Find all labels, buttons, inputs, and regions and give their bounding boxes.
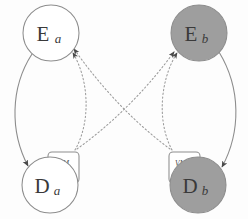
edge-execution-b-to-data-b: [219, 52, 236, 167]
edge-execution-a-to-data-a: [15, 54, 32, 166]
diagram-svg: VM VM E a E b D a D b: [0, 0, 248, 219]
data-node-a-shape: [22, 157, 78, 213]
edge-vm-b-to-execution-b: [162, 53, 177, 150]
edge-vm-b-to-execution-a: [74, 49, 170, 149]
dotted-edge-layer: [73, 49, 177, 150]
data-node-b-shape: [170, 157, 226, 213]
data-node-a-label: D: [34, 174, 49, 198]
edge-vm-a-to-execution-b: [77, 52, 174, 149]
execution-node-b-subscript: b: [202, 31, 209, 46]
data-node-b-subscript: b: [202, 183, 209, 198]
execution-node-b-shape: [171, 5, 227, 61]
data-node-a[interactable]: D a: [22, 157, 78, 213]
data-node-a-subscript: a: [54, 183, 61, 198]
execution-node-a-shape: [23, 5, 79, 61]
edge-vm-a-to-execution-a: [73, 53, 86, 150]
data-node-b[interactable]: D b: [170, 157, 226, 213]
execution-node-b-label: E: [185, 22, 198, 46]
solid-edge-layer: [15, 52, 236, 167]
data-node-b-label: D: [182, 174, 197, 198]
execution-node-a-label: E: [37, 22, 50, 46]
execution-node-b[interactable]: E b: [171, 5, 227, 61]
execution-node-a[interactable]: E a: [23, 5, 79, 61]
diagram-canvas: VM VM E a E b D a D b: [0, 0, 248, 219]
execution-node-a-subscript: a: [55, 31, 62, 46]
